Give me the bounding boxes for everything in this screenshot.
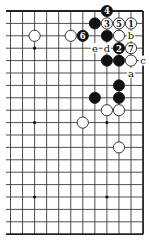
black-stone bbox=[113, 55, 124, 66]
svg-text:e: e bbox=[92, 43, 98, 54]
move-number: 4 bbox=[104, 6, 110, 16]
move-number: 7 bbox=[128, 44, 134, 54]
svg-text:a: a bbox=[128, 68, 134, 79]
white-stone-move-7: 7 bbox=[125, 43, 136, 54]
black-stone bbox=[101, 55, 112, 66]
black-stone bbox=[89, 92, 100, 103]
move-number: 6 bbox=[80, 31, 86, 41]
white-stone bbox=[101, 105, 112, 116]
white-stone-move-5: 5 bbox=[113, 18, 124, 29]
black-stone-move-4: 4 bbox=[101, 5, 112, 16]
black-stone bbox=[101, 30, 112, 41]
star-point bbox=[105, 195, 108, 198]
variation-letter-c: c bbox=[139, 55, 147, 66]
white-stone bbox=[113, 105, 124, 116]
black-stone bbox=[113, 80, 124, 91]
variation-letter-a: a bbox=[127, 68, 135, 79]
variation-letter-e: e bbox=[91, 43, 99, 54]
move-number: 1 bbox=[128, 19, 134, 29]
svg-text:b: b bbox=[128, 30, 134, 41]
go-board-diagram: 4351627 bedca bbox=[0, 0, 149, 243]
white-stone bbox=[65, 30, 76, 41]
move-number: 3 bbox=[104, 19, 110, 29]
white-stone bbox=[125, 55, 136, 66]
white-stone bbox=[113, 142, 124, 153]
star-point bbox=[33, 195, 36, 198]
move-number: 2 bbox=[116, 44, 122, 54]
black-stone bbox=[89, 18, 100, 29]
variation-letter-d: d bbox=[103, 43, 111, 54]
move-number: 5 bbox=[116, 19, 122, 29]
black-stone bbox=[113, 92, 124, 103]
white-stone-move-3: 3 bbox=[101, 18, 112, 29]
white-stone-move-1: 1 bbox=[125, 18, 136, 29]
white-stone bbox=[29, 30, 40, 41]
star-point bbox=[33, 121, 36, 124]
white-stone bbox=[113, 30, 124, 41]
svg-text:c: c bbox=[140, 55, 146, 66]
star-point bbox=[33, 47, 36, 50]
star-point bbox=[105, 121, 108, 124]
black-stone-move-6: 6 bbox=[77, 30, 88, 41]
variation-letter-b: b bbox=[127, 30, 135, 41]
black-stone-move-2: 2 bbox=[113, 43, 124, 54]
white-stone bbox=[77, 117, 88, 128]
svg-text:d: d bbox=[104, 43, 111, 54]
